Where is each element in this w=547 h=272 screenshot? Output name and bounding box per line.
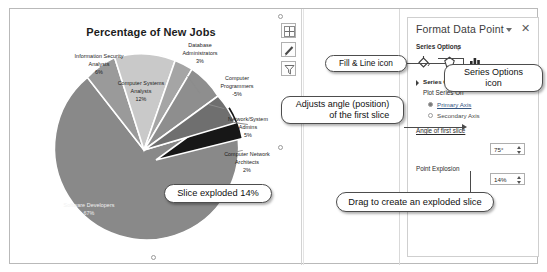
fill-and-line-icon[interactable] (416, 55, 431, 69)
angle-stepper-down-icon[interactable] (517, 151, 521, 154)
point-explosion-stepper-down-icon[interactable] (517, 181, 521, 184)
pane-divider-tertiary (399, 9, 400, 265)
point-explosion-stepper-up-icon[interactable] (517, 176, 521, 179)
pie-graphic[interactable] (20, 18, 282, 272)
annotation-connector-angle-h (404, 127, 464, 128)
label-computer-systems-analysts: Computer Systems Analysts 12% (108, 80, 174, 103)
annotation-series-options: Series Options icon (444, 64, 543, 92)
radio-primary-axis-label[interactable]: Primary Axis (437, 101, 471, 108)
annotation-connector-drag-v (470, 171, 471, 192)
expand-triangle-icon[interactable] (416, 80, 419, 86)
point-explosion-value: 14% (494, 176, 506, 183)
radio-secondary-axis[interactable] (428, 113, 433, 118)
plus-icon (284, 26, 295, 37)
label-software-developers: Software Developers 67% (46, 202, 132, 218)
pane-subhead-chevron-down-icon[interactable]: ▽ (456, 44, 461, 51)
label-computer-network-architects: Computer Network Architects 2% (217, 151, 277, 174)
pane-title: Format Data Point (416, 23, 504, 35)
pane-header: Format Data Point ✕ (408, 18, 538, 42)
chart-handle-middle-right[interactable] (278, 145, 283, 150)
annotation-drag-exploded: Drag to create an exploded slice (336, 192, 494, 212)
chart-handle-bottom-center[interactable] (151, 255, 156, 260)
annotation-connector-fill-line (404, 63, 446, 64)
chart-filters-button[interactable] (281, 61, 296, 76)
annotation-angle: Adjusts angle (position) of the first sl… (281, 96, 404, 124)
annotation-slice-exploded: Slice exploded 14% (164, 184, 272, 203)
angle-of-first-slice-value: 75° (494, 146, 503, 153)
label-information-security-analysts: Information Security Analysts 6% (66, 53, 132, 76)
annotation-connector-series-options-h (438, 58, 464, 59)
point-explosion-input[interactable]: 14% (490, 173, 525, 185)
annotation-arrow-angle (462, 124, 467, 130)
radio-primary-axis[interactable] (428, 102, 433, 107)
angle-stepper[interactable] (516, 145, 522, 155)
angle-stepper-up-icon[interactable] (517, 146, 521, 149)
label-computer-programmers: Computer Programmers -5% (212, 75, 262, 98)
point-explosion-label: Point Explosion (416, 165, 459, 172)
label-database-administrators: Database Administrators 3% (171, 42, 229, 65)
chart-elements-button[interactable] (281, 23, 296, 38)
radio-secondary-axis-label[interactable]: Secondary Axis (437, 112, 480, 119)
pie-chart-region[interactable]: Percentage of New Jobs (20, 18, 282, 272)
label-network-system-admins: Network/System Admins 5% (219, 116, 277, 139)
pie-svg[interactable] (20, 18, 282, 272)
screenshot-root: Percentage of New Jobs (0, 0, 547, 272)
pane-divider (301, 9, 302, 265)
pane-subhead: Series Options (416, 43, 461, 50)
funnel-icon (284, 64, 295, 75)
point-explosion-stepper[interactable] (516, 175, 522, 185)
annotation-fill-line: Fill & Line icon (325, 55, 407, 72)
app-window-frame: Percentage of New Jobs (9, 8, 538, 264)
chart-styles-button[interactable] (281, 42, 296, 57)
chevron-down-icon[interactable] (506, 28, 512, 32)
angle-of-first-slice-input[interactable]: 75° (490, 143, 525, 155)
format-data-point-pane[interactable]: Format Data Point ✕ Series Options ▽ (407, 17, 539, 257)
close-icon[interactable]: ✕ (521, 22, 530, 34)
chart-side-buttons[interactable] (281, 23, 298, 80)
brush-icon (284, 45, 295, 56)
pane-divider-secondary (303, 9, 304, 265)
chart-handle-top-right[interactable] (278, 14, 283, 19)
